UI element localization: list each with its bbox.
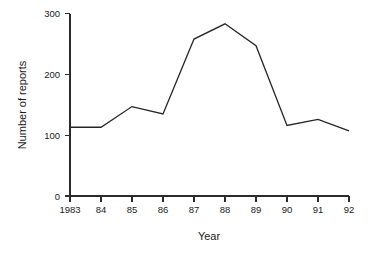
x-tick-label-87: 87 [189,204,200,215]
x-tick-label-84: 84 [96,204,107,215]
x-tick-label-89: 89 [251,204,262,215]
y-axis-title: Number of reports [16,60,28,149]
y-tick-label-300: 300 [44,8,60,19]
x-tick-label-85: 85 [127,204,138,215]
x-tick-label-88: 88 [220,204,231,215]
x-tick-label-86: 86 [158,204,169,215]
x-tick-label-91: 91 [313,204,324,215]
x-tick-marks [70,196,349,202]
y-tick-label-0: 0 [55,191,60,202]
line-chart-figure: 300 200 100 0 1983 84 85 86 87 88 89 90 … [0,0,373,255]
x-tick-label-1983: 1983 [59,204,80,215]
y-tick-label-200: 200 [44,69,60,80]
x-tick-label-90: 90 [282,204,293,215]
x-axis-title: Year [198,230,221,242]
x-tick-label-92: 92 [344,204,355,215]
chart-canvas: 300 200 100 0 1983 84 85 86 87 88 89 90 … [0,0,373,255]
y-tick-marks [65,14,71,197]
y-tick-label-100: 100 [44,130,60,141]
data-series-line [70,24,349,131]
